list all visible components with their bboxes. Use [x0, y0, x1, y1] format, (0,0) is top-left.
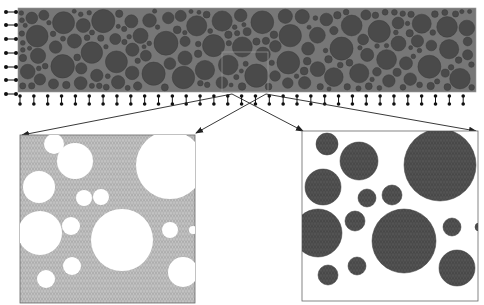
aggregate-particle: [383, 75, 395, 87]
fixed-support: [448, 94, 452, 106]
aggregate-particle: [195, 60, 214, 79]
aggregate-particle: [392, 17, 404, 29]
fixed-support: [101, 94, 105, 106]
aggregate-particle: [265, 83, 272, 90]
aggregate-particle: [320, 13, 333, 26]
aggregate-particle: [234, 31, 239, 36]
aggregate-particle: [125, 15, 138, 28]
aggregate-particle: [122, 39, 127, 44]
aggregate-particle: [142, 62, 165, 85]
aggregate-particle: [238, 83, 246, 91]
aggregate-mesh: [305, 169, 341, 205]
aggregate-particle: [135, 58, 140, 63]
aggregate-particle: [103, 84, 109, 90]
aggregate-particle: [406, 30, 413, 37]
aggregate-mesh: [475, 223, 483, 231]
aggregate-particle: [72, 9, 76, 13]
aggregate-particle: [96, 83, 102, 89]
fixed-support: [378, 94, 382, 106]
aggregate-particle: [142, 45, 146, 49]
aggregate-particle: [409, 46, 413, 50]
aggregate-particle: [400, 84, 406, 90]
aggregate-particle: [361, 10, 371, 20]
aggregate-particle: [441, 69, 449, 77]
aggregate-particle: [467, 9, 471, 13]
aggregate-particle: [20, 40, 25, 45]
aggregate-particle: [313, 16, 318, 21]
aggregate-particle: [317, 84, 323, 90]
aggregate-particle: [194, 50, 201, 57]
aggregate-particle: [173, 26, 181, 34]
aggregate-particle: [417, 48, 422, 53]
fixed-support: [364, 94, 368, 106]
aggregate-particle: [92, 9, 115, 32]
fixed-support: [4, 92, 18, 96]
aggregate-particle: [448, 65, 454, 71]
aggregate-mesh: [294, 209, 342, 257]
fixed-support: [351, 94, 355, 106]
fixed-support: [392, 94, 396, 106]
fixed-support: [60, 94, 64, 106]
aggregate-particle: [356, 86, 361, 91]
aggregate-particle: [180, 36, 190, 46]
aggregate-particle: [382, 9, 388, 15]
aggregate-particle: [253, 38, 260, 45]
aggregate-particle: [116, 24, 120, 28]
aggregate-particle: [229, 83, 233, 87]
aggregate-particle: [50, 31, 56, 37]
aggregate-particle: [330, 37, 353, 60]
aggregate-particle: [81, 42, 102, 63]
fixed-support: [18, 94, 22, 106]
aggregate-particle: [183, 30, 187, 34]
aggregate-particle: [19, 18, 24, 23]
aggregate-particle: [74, 54, 81, 61]
aggregate-particle: [60, 36, 65, 41]
aggregate-particle: [324, 68, 343, 87]
fixed-support: [434, 94, 438, 106]
aggregate-particle: [51, 55, 75, 79]
aggregate-particle: [300, 67, 308, 75]
aggregate-particle: [53, 12, 75, 34]
aggregate-particle: [370, 77, 374, 81]
fixed-support: [129, 94, 133, 106]
aggregate-particle: [373, 68, 382, 77]
aggregate-particle: [417, 82, 423, 88]
aggregate-particle: [154, 31, 178, 55]
aggregate-particle: [346, 59, 353, 66]
aggregate-particle: [463, 50, 473, 60]
aggregate-hole: [91, 209, 153, 271]
aggregate-hole: [162, 222, 178, 238]
aggregate-particle: [172, 66, 194, 88]
aggregate-mesh: [382, 185, 402, 205]
aggregate-particle: [327, 87, 331, 91]
aggregate-particle: [89, 83, 94, 88]
aggregate-particle: [234, 74, 239, 79]
aggregate-particle: [384, 43, 388, 47]
fixed-support: [87, 94, 91, 106]
aggregate-particle: [251, 11, 274, 34]
aggregate-particle: [375, 44, 380, 49]
aggregate-particle: [460, 9, 464, 13]
aggregate-particle: [392, 9, 398, 15]
fixed-support: [309, 94, 313, 106]
aggregate-particle: [365, 83, 372, 90]
aggregate-particle: [39, 10, 49, 20]
fixed-support: [143, 94, 147, 106]
aggregate-particle: [323, 48, 328, 53]
aggregate-particle: [270, 31, 278, 39]
aggregate-particle: [432, 11, 439, 18]
zoom-arrow: [196, 94, 266, 133]
aggregate-particle: [239, 69, 243, 73]
aggregate-particle: [377, 50, 397, 70]
aggregate-particle: [245, 64, 268, 87]
aggregate-particle: [337, 62, 343, 68]
aggregate-hole: [18, 211, 62, 255]
aggregate-particle: [400, 57, 413, 70]
aggregate-particle: [98, 35, 104, 41]
aggregate-particle: [404, 73, 417, 86]
aggregate-particle: [26, 25, 48, 47]
aggregate-hole: [37, 270, 55, 288]
fixed-support: [268, 94, 272, 106]
bottom-fixed-supports: [18, 94, 465, 106]
fixed-support: [4, 23, 18, 27]
